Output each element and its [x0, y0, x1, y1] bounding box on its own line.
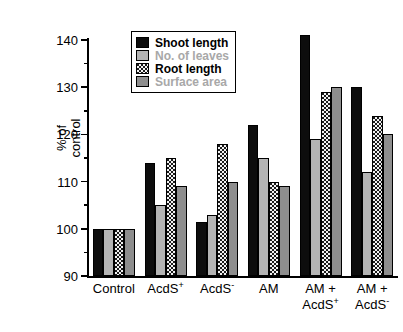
bar-AM-shoot-length	[248, 125, 259, 276]
bar-AcdS⁻-shoot-length	[196, 222, 207, 276]
y-tick-label-120: 120	[44, 128, 78, 141]
legend-swatch-icon-1	[136, 50, 149, 61]
bar-AcdS⁺-root-length	[166, 158, 177, 276]
legend-swatch-icon-3	[136, 76, 149, 87]
y-tick-110	[81, 181, 88, 183]
y-tick-120	[81, 134, 88, 136]
bar-AcdS⁺-shoot-length	[145, 163, 156, 276]
x-tick-label-4: AM +AcdS+	[295, 281, 347, 313]
bar-AcdS⁻-root-length	[217, 144, 228, 276]
bar-AM-root-length	[269, 182, 280, 276]
bar-AMAcdS⁻-shoot-length	[351, 87, 362, 276]
bar-AcdS⁻-no--of-leaves	[207, 215, 218, 276]
legend-item-no--of-leaves: No. of leaves	[136, 49, 229, 62]
bar-Control-root-length	[114, 229, 125, 276]
y-tick-label-130: 130	[44, 81, 78, 94]
bar-AM-no--of-leaves	[258, 158, 269, 276]
y-tick-label-140: 140	[44, 34, 78, 47]
x-axis-line	[87, 276, 398, 278]
legend-label-3: Surface area	[155, 76, 227, 88]
x-tick-label-0: Control	[88, 281, 140, 297]
legend-swatch-icon-0	[136, 37, 149, 48]
bar-AcdS⁻-surface-area	[228, 182, 239, 276]
bar-AcdS⁺-no--of-leaves	[155, 205, 166, 276]
x-tick-label-1: AcdS+	[140, 281, 192, 297]
chart-legend: Shoot lengthNo. of leavesRoot lengthSurf…	[131, 31, 236, 93]
bar-Control-no--of-leaves	[103, 229, 114, 276]
legend-label-0: Shoot length	[155, 37, 228, 49]
bar-AM-surface-area	[279, 186, 290, 276]
bar-AMAcdS⁻-surface-area	[383, 134, 394, 276]
y-tick-90	[81, 275, 88, 277]
legend-item-surface-area: Surface area	[136, 75, 229, 88]
x-tick-label-2: AcdS-	[191, 281, 243, 297]
bar-AMAcdS⁻-root-length	[372, 116, 383, 276]
bar-AMAcdS⁺-root-length	[321, 92, 332, 276]
x-tick-label-3: AM	[243, 281, 295, 297]
y-tick-label-110: 110	[44, 176, 78, 189]
y-tick-label-100: 100	[44, 223, 78, 236]
x-tick-label-5: AM +AcdS-	[346, 281, 398, 313]
legend-label-1: No. of leaves	[155, 50, 229, 62]
legend-item-root-length: Root length	[136, 62, 229, 75]
bar-Control-surface-area	[124, 229, 135, 276]
legend-label-2: Root length	[155, 63, 222, 75]
bar-AMAcdS⁺-shoot-length	[300, 35, 311, 276]
bar-AMAcdS⁺-no--of-leaves	[310, 139, 321, 276]
bar-AMAcdS⁻-no--of-leaves	[362, 172, 373, 276]
y-tick-100	[81, 228, 88, 230]
bar-Control-shoot-length	[93, 229, 104, 276]
legend-item-shoot-length: Shoot length	[136, 36, 229, 49]
bar-AcdS⁺-surface-area	[176, 186, 187, 276]
y-tick-label-90: 90	[44, 270, 78, 283]
y-tick-130	[81, 86, 88, 88]
y-tick-140	[81, 39, 88, 41]
legend-swatch-icon-2	[136, 63, 149, 74]
bar-chart: % of control 90100110120130140 ControlAc…	[0, 0, 403, 332]
bar-AMAcdS⁺-surface-area	[331, 87, 342, 276]
